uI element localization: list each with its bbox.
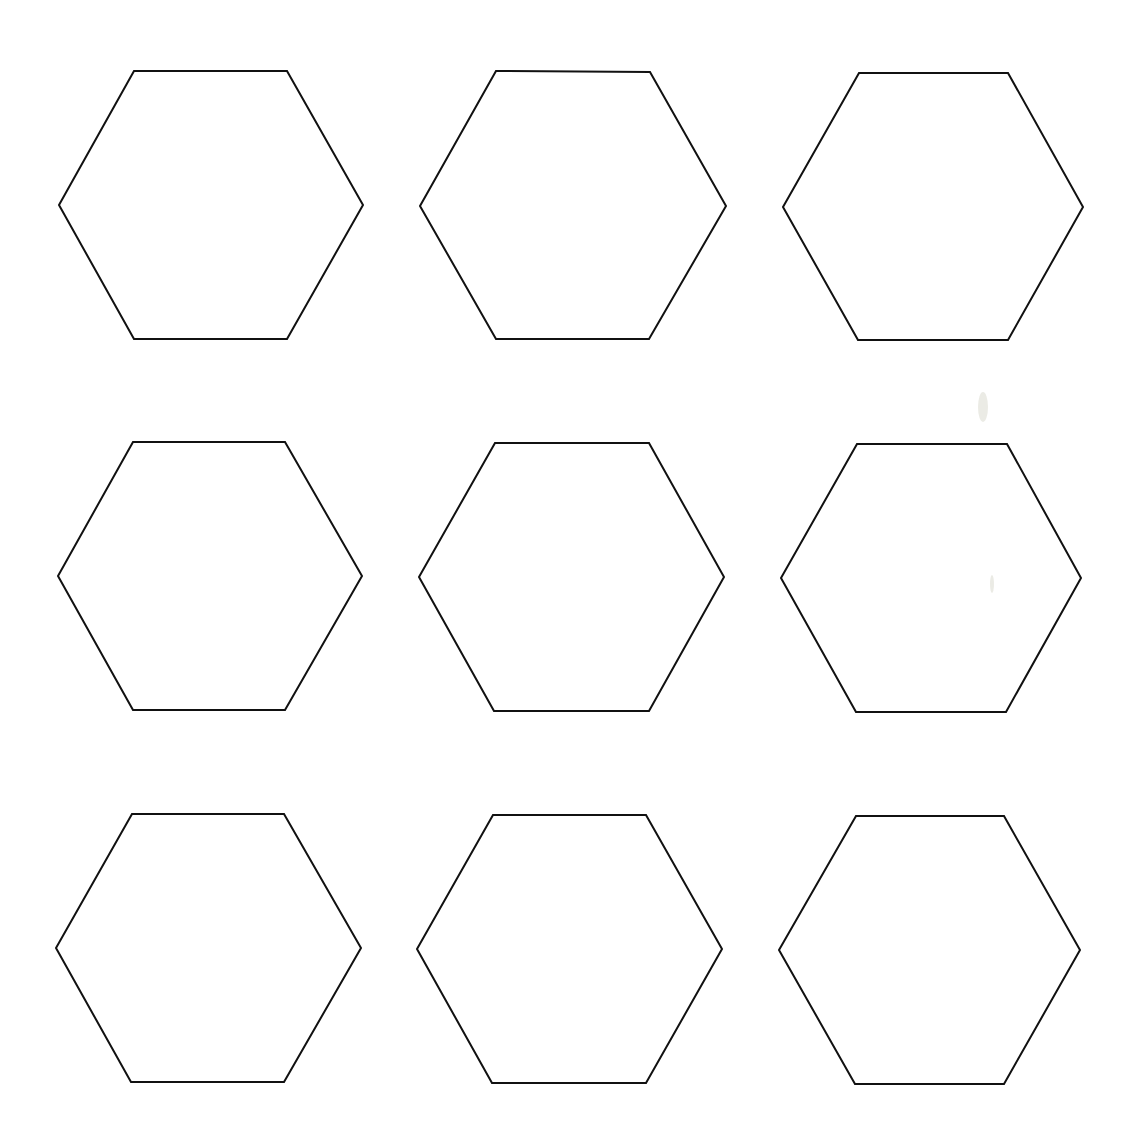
hexagon-grid [0, 0, 1140, 1144]
background [0, 0, 1140, 1144]
scan-speck [978, 392, 988, 422]
scan-speck [990, 575, 994, 593]
